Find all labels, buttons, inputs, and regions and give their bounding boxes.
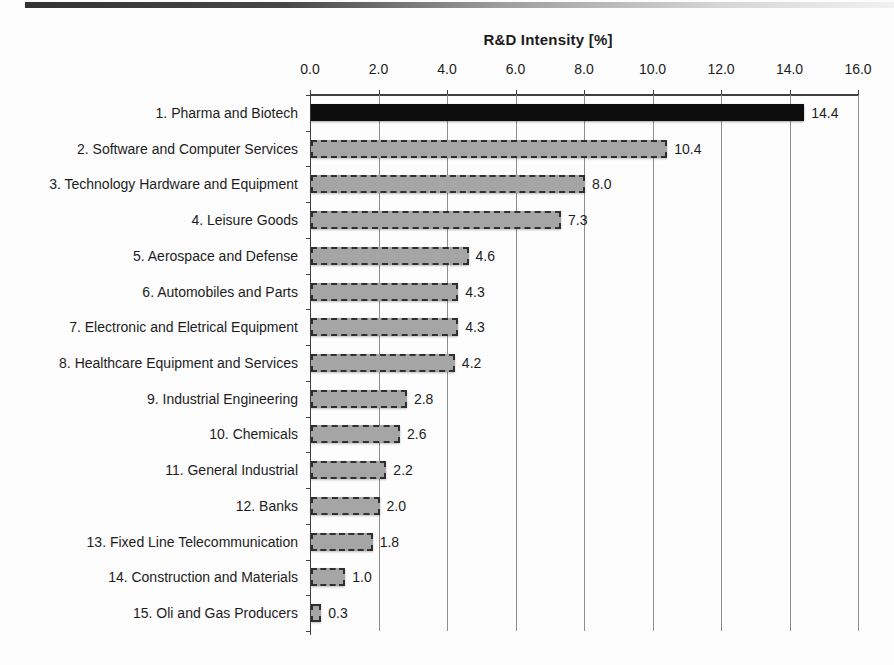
- category-label: 8. Healthcare Equipment and Services: [0, 345, 298, 381]
- category-label: 11. General Industrial: [0, 452, 298, 488]
- category-label: 1. Pharma and Biotech: [0, 95, 298, 131]
- gridline: [790, 95, 791, 631]
- y-axis-tick: [306, 488, 310, 489]
- category-label: 5. Aerospace and Defense: [0, 238, 298, 274]
- bar-value-label: 1.0: [352, 560, 371, 596]
- category-label: 3. Technology Hardware and Equipment: [0, 166, 298, 202]
- bar: [311, 318, 458, 336]
- bar-value-label: 10.4: [674, 131, 701, 167]
- bar-value-label: 0.3: [328, 595, 347, 631]
- y-axis-tick: [306, 560, 310, 561]
- category-label: 2. Software and Computer Services: [0, 131, 298, 167]
- bar: [311, 497, 380, 515]
- bar-value-label: 4.6: [476, 238, 495, 274]
- category-label: 9. Industrial Engineering: [0, 381, 298, 417]
- bar-value-label: 4.3: [465, 309, 484, 345]
- bar: [311, 604, 321, 622]
- y-axis-tick: [306, 417, 310, 418]
- y-axis-tick: [306, 309, 310, 310]
- bar: [311, 104, 804, 121]
- x-tick-label: 2.0: [357, 61, 401, 77]
- gridline: [653, 95, 654, 631]
- chart-title: R&D Intensity [%]: [274, 31, 822, 48]
- page-top-rule: [25, 2, 894, 8]
- gridline: [721, 95, 722, 631]
- bar-value-label: 2.2: [393, 452, 412, 488]
- y-axis-tick: [306, 95, 310, 96]
- category-label: 4. Leisure Goods: [0, 202, 298, 238]
- bar: [311, 354, 455, 372]
- bar: [311, 247, 469, 265]
- bar: [311, 140, 667, 158]
- category-label: 10. Chemicals: [0, 417, 298, 453]
- y-axis-tick: [306, 202, 310, 203]
- y-axis-tick: [306, 345, 310, 346]
- y-axis-tick: [306, 166, 310, 167]
- bar: [311, 425, 400, 443]
- y-axis-tick: [306, 274, 310, 275]
- bar-value-label: 1.8: [380, 524, 399, 560]
- y-axis-tick: [306, 595, 310, 596]
- category-label: 14. Construction and Materials: [0, 560, 298, 596]
- gridline: [858, 95, 859, 631]
- category-label: 13. Fixed Line Telecommunication: [0, 524, 298, 560]
- bar: [311, 211, 561, 229]
- y-axis-tick: [306, 452, 310, 453]
- bar: [311, 390, 407, 408]
- x-tick-label: 4.0: [425, 61, 469, 77]
- x-tick-label: 6.0: [494, 61, 538, 77]
- bar-value-label: 14.4: [811, 95, 838, 131]
- category-label: 6. Automobiles and Parts: [0, 274, 298, 310]
- x-tick-label: 14.0: [768, 61, 812, 77]
- bar-value-label: 2.0: [387, 488, 406, 524]
- bar: [311, 175, 585, 193]
- category-label: 15. Oli and Gas Producers: [0, 595, 298, 631]
- y-axis-tick: [306, 524, 310, 525]
- y-axis-tick: [306, 631, 310, 632]
- category-label: 7. Electronic and Eletrical Equipment: [0, 309, 298, 345]
- bar-value-label: 4.3: [465, 274, 484, 310]
- bar-value-label: 7.3: [568, 202, 587, 238]
- bar-value-label: 4.2: [462, 345, 481, 381]
- x-tick-label: 16.0: [836, 61, 880, 77]
- bar-value-label: 2.8: [414, 381, 433, 417]
- x-tick-label: 12.0: [699, 61, 743, 77]
- x-tick-label: 0.0: [288, 61, 332, 77]
- bar-value-label: 8.0: [592, 166, 611, 202]
- y-axis-tick: [306, 238, 310, 239]
- y-axis-tick: [306, 381, 310, 382]
- x-tick-label: 10.0: [631, 61, 675, 77]
- bar-value-label: 2.6: [407, 417, 426, 453]
- y-axis-tick: [306, 131, 310, 132]
- scanned-chart-page: R&D Intensity [%] 0.02.04.06.08.010.012.…: [0, 0, 894, 665]
- x-tick-label: 8.0: [562, 61, 606, 77]
- bar: [311, 283, 458, 301]
- bar: [311, 533, 373, 551]
- bar: [311, 461, 386, 479]
- category-label: 12. Banks: [0, 488, 298, 524]
- bar: [311, 568, 345, 586]
